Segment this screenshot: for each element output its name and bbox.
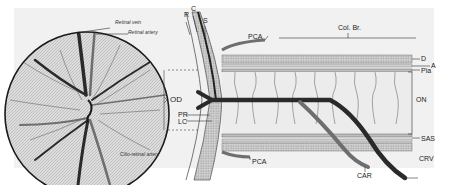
label-PR: PR (178, 111, 188, 118)
label-OD: OD (170, 96, 182, 104)
diagram-artwork (0, 0, 449, 185)
label-PCA-bottom: PCA (252, 158, 266, 165)
fundus-view (0, 28, 175, 185)
figure-canvas: Retinal vein Retinal artery Cilio-retina… (0, 0, 449, 185)
label-ON: ON (416, 96, 427, 103)
label-retinal-vein: Retinal vein (115, 20, 141, 25)
label-SAS: SAS (421, 135, 435, 142)
optic-nerve (222, 55, 412, 151)
pca-top-vessel (222, 40, 265, 50)
label-cilio-retinal-artery: Cilio-retinal artery (120, 152, 159, 157)
label-A: A (431, 62, 436, 69)
label-CAR: CAR (357, 172, 372, 179)
label-PCA-top: PCA (248, 33, 262, 40)
label-S: S (203, 17, 208, 24)
label-retinal-artery: Retinal artery (128, 30, 158, 35)
label-Pia: Pia (421, 67, 431, 74)
pca-bottom-vessel (222, 152, 250, 157)
label-R: R (184, 11, 189, 18)
label-LC: LC (178, 118, 187, 125)
label-CRV: CRV (419, 155, 434, 162)
label-D: D (421, 55, 426, 62)
label-col-br: Col. Br. (338, 24, 361, 31)
label-C: C (191, 5, 196, 12)
